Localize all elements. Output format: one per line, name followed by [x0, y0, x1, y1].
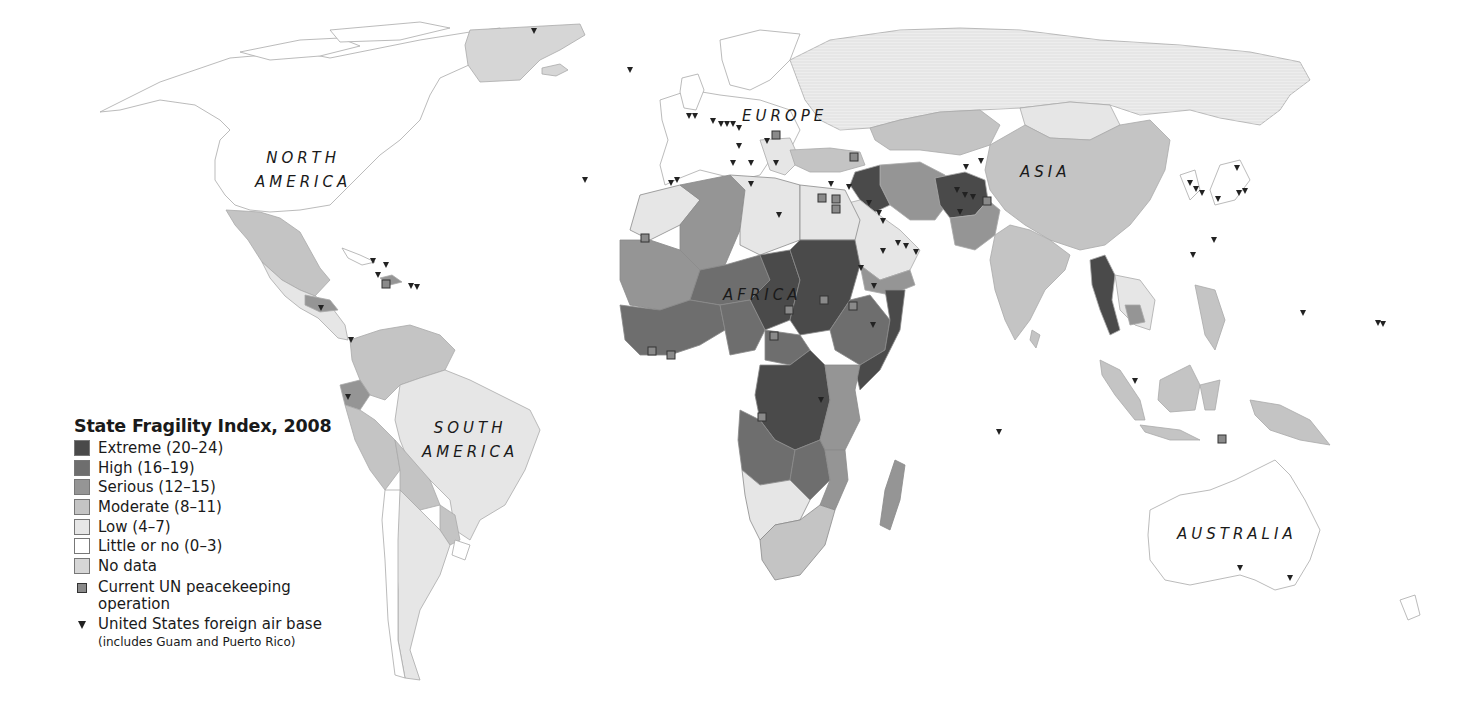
label-south-america: SOUTH AMERICA	[422, 416, 518, 464]
java	[1140, 425, 1200, 440]
label-australia: AUSTRALIA	[1177, 522, 1297, 546]
legend-item-serious: Serious (12–15)	[74, 477, 374, 497]
legend-title: State Fragility Index, 2008	[74, 416, 374, 436]
swatch-low	[74, 519, 90, 535]
swatch-serious	[74, 479, 90, 495]
air-base-triangle-icon	[78, 621, 86, 629]
swatch-little	[74, 538, 90, 554]
swatch-moderate	[74, 499, 90, 515]
legend-item-no-data: No data	[74, 556, 374, 576]
label-north-america: NORTH AMERICA	[255, 146, 351, 194]
sumatra	[1100, 360, 1145, 420]
legend-item-high: High (16–19)	[74, 458, 374, 478]
legend-item-extreme: Extreme (20–24)	[74, 438, 374, 458]
scandinavia	[720, 30, 800, 90]
uruguay	[452, 540, 470, 560]
legend-item-moderate: Moderate (8–11)	[74, 497, 374, 517]
legend-item-un-peacekeeping: Current UN peacekeeping operation	[74, 579, 374, 613]
sulawesi	[1200, 380, 1220, 410]
un-peacekeeping-icon	[77, 583, 87, 593]
label-asia: ASIA	[1020, 160, 1070, 184]
sri-lanka	[1030, 330, 1040, 348]
label-africa: AFRICA	[723, 283, 801, 307]
philippines	[1195, 285, 1225, 350]
new-zealand	[1400, 595, 1420, 620]
png	[1250, 400, 1330, 445]
greenland	[465, 24, 585, 82]
japan	[1210, 160, 1250, 205]
legend: State Fragility Index, 2008 Extreme (20–…	[74, 416, 374, 651]
legend-item-low: Low (4–7)	[74, 517, 374, 537]
swatch-no-data	[74, 558, 90, 574]
swatch-high	[74, 460, 90, 476]
myanmar	[1090, 255, 1120, 335]
legend-item-little: Little or no (0–3)	[74, 536, 374, 556]
iceland	[542, 64, 568, 76]
label-europe: EUROPE	[742, 104, 827, 128]
algeria	[680, 175, 745, 270]
egypt	[800, 185, 860, 240]
madagascar	[880, 460, 905, 530]
swatch-extreme	[74, 440, 90, 456]
legend-item-us-air-base: United States foreign air base (includes…	[74, 616, 374, 651]
west-africa	[620, 300, 725, 355]
borneo	[1158, 365, 1200, 412]
